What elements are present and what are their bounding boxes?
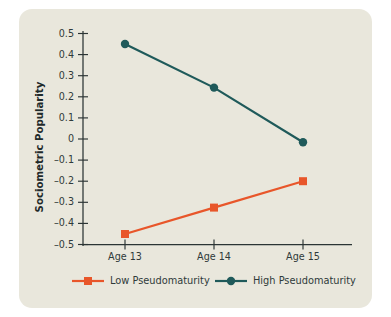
y-tick-label: 0.3 <box>59 70 74 81</box>
legend-label-high: High Pseudomaturity <box>253 275 356 286</box>
data-point-high-age13 <box>121 40 129 48</box>
legend-item-low[interactable]: Low Pseudomaturity <box>72 275 210 286</box>
data-point-low-age14 <box>210 204 218 212</box>
data-point-high-age14 <box>210 83 218 91</box>
chart-legend: Low Pseudomaturity High Pseudomaturity <box>72 275 356 286</box>
y-axis-tick-labels: 0.5 0.4 0.3 0.2 0.1 0 –0.1 –0.2 –0.3 –0.… <box>54 28 74 250</box>
x-tick-label: Age 14 <box>197 251 231 262</box>
y-tick-label: –0.2 <box>54 175 74 186</box>
legend-item-high[interactable]: High Pseudomaturity <box>215 275 356 286</box>
x-tick-label: Age 13 <box>108 251 142 262</box>
y-tick-label: –0.1 <box>54 154 74 165</box>
y-tick-label: 0 <box>68 133 74 144</box>
x-axis-tick-labels: Age 13 Age 14 Age 15 <box>108 251 320 262</box>
line-chart: Sociometric Popularity 0.5 0.4 0.3 0.2 0… <box>0 0 391 317</box>
series-high-line <box>125 44 303 142</box>
series-low-pseudomaturity <box>121 177 307 238</box>
chart-figure: Sociometric Popularity 0.5 0.4 0.3 0.2 0… <box>0 0 391 317</box>
y-tick-label: –0.4 <box>54 217 74 228</box>
y-tick-label: 0.1 <box>59 112 74 123</box>
y-tick-label: 0.5 <box>59 28 74 39</box>
data-point-low-age13 <box>121 230 129 238</box>
data-point-high-age15 <box>299 138 307 146</box>
y-tick-label: 0.2 <box>59 91 74 102</box>
legend-label-low: Low Pseudomaturity <box>110 275 210 286</box>
y-axis-title: Sociometric Popularity <box>34 81 45 212</box>
data-point-low-age15 <box>299 177 307 185</box>
y-tick-label: –0.3 <box>54 196 74 207</box>
legend-marker-circle-icon <box>227 277 235 285</box>
y-tick-label: –0.5 <box>54 239 74 250</box>
x-tick-label: Age 15 <box>286 251 320 262</box>
series-high-pseudomaturity <box>121 40 307 147</box>
y-tick-label: 0.4 <box>59 49 74 60</box>
legend-marker-square-icon <box>84 277 92 285</box>
